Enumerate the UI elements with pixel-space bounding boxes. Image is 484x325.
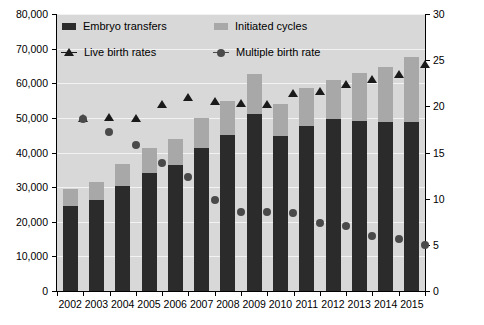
marker-multiple-birth-rate [316, 219, 324, 227]
bar-embryo-transfers [194, 148, 209, 291]
left-axis-tick-label: 0 [42, 286, 48, 296]
marker-live-birth-rate [236, 99, 246, 107]
right-axis-tick-label: 15 [433, 148, 445, 158]
right-axis-tick [426, 291, 430, 292]
right-axis-tick [426, 153, 430, 154]
bar-embryo-transfers [220, 135, 235, 291]
marker-multiple-birth-rate [263, 208, 271, 216]
circle-marker-icon [213, 48, 229, 57]
x-axis-tick-label: 2015 [397, 299, 427, 309]
marker-multiple-birth-rate [395, 235, 403, 243]
left-axis-tick-label: 20,000 [16, 217, 48, 227]
marker-multiple-birth-rate [211, 196, 219, 204]
left-axis-tick [52, 187, 56, 188]
right-axis-tick-label: 20 [433, 101, 445, 111]
x-axis-tick [188, 292, 189, 296]
left-axis-tick [52, 14, 56, 15]
x-axis-tick [372, 292, 373, 296]
x-axis-tick [294, 292, 295, 296]
x-axis-tick [162, 292, 163, 296]
marker-live-birth-rate [288, 89, 298, 97]
left-axis-tick-label: 40,000 [16, 148, 48, 158]
x-axis-tick [136, 292, 137, 296]
gridline [57, 14, 425, 15]
x-axis-tick [425, 292, 426, 296]
bar-embryo-transfers [168, 165, 183, 291]
left-axis-tick [52, 153, 56, 154]
x-axis-tick [57, 292, 58, 296]
x-axis-tick [346, 292, 347, 296]
marker-live-birth-rate [367, 75, 377, 83]
marker-multiple-birth-rate [158, 159, 166, 167]
marker-live-birth-rate [157, 100, 167, 108]
marker-live-birth-rate [315, 87, 325, 95]
legend-item-initiated-cycles: Initiated cycles [214, 20, 307, 32]
left-axis-tick [52, 49, 56, 50]
bar-embryo-transfers [404, 122, 419, 291]
x-axis-tick [110, 292, 111, 296]
marker-live-birth-rate [104, 113, 114, 121]
right-axis-tick [426, 199, 430, 200]
marker-live-birth-rate [394, 70, 404, 78]
marker-live-birth-rate [183, 93, 193, 101]
marker-live-birth-rate [131, 114, 141, 122]
marker-multiple-birth-rate [184, 173, 192, 181]
marker-multiple-birth-rate [421, 241, 429, 249]
bar-group [378, 14, 393, 291]
bar-embryo-transfers [89, 200, 104, 291]
chart-container: 010,00020,00030,00040,00050,00060,00070,… [0, 0, 484, 325]
gridline [57, 187, 425, 188]
legend-item-embryo-transfers: Embryo transfers [62, 20, 167, 32]
bar-embryo-transfers [247, 114, 262, 291]
bar-embryo-transfers [352, 121, 367, 291]
left-axis-tick-label: 80,000 [16, 9, 48, 19]
bar-embryo-transfers [115, 186, 130, 291]
left-axis-tick-label: 50,000 [16, 113, 48, 123]
left-axis-tick [52, 83, 56, 84]
left-axis-tick-label: 60,000 [16, 78, 48, 88]
right-axis-tick-label: 5 [433, 240, 439, 250]
bar-embryo-transfers [378, 122, 393, 291]
left-axis-tick-label: 30,000 [16, 182, 48, 192]
left-axis-tick-label: 70,000 [16, 44, 48, 54]
gridline [57, 83, 425, 84]
x-axis-tick [399, 292, 400, 296]
bar-embryo-transfers [299, 126, 314, 292]
right-axis-tick-label: 25 [433, 55, 445, 65]
legend-label: Multiple birth rate [236, 46, 320, 58]
marker-live-birth-rate [262, 100, 272, 108]
marker-live-birth-rate [210, 97, 220, 105]
left-axis-tick [52, 222, 56, 223]
left-axis-tick [52, 256, 56, 257]
legend-label: Initiated cycles [235, 20, 307, 32]
x-axis-tick [215, 292, 216, 296]
left-axis-tick [52, 291, 56, 292]
right-axis-tick [426, 14, 430, 15]
x-axis-tick [267, 292, 268, 296]
black-square-swatch-icon [62, 23, 76, 30]
marker-multiple-birth-rate [368, 232, 376, 240]
x-axis-tick [83, 292, 84, 296]
triangle-marker-icon [61, 48, 77, 57]
left-axis-line [56, 14, 57, 292]
right-axis-tick-label: 10 [433, 194, 445, 204]
chart-legend: Embryo transfers Initiated cycles Live b… [62, 20, 362, 72]
bar-embryo-transfers [273, 136, 288, 291]
x-axis-tick [320, 292, 321, 296]
gray-square-swatch-icon [214, 23, 228, 30]
right-axis-tick [426, 106, 430, 107]
legend-label: Live birth rates [84, 46, 156, 58]
bar-embryo-transfers [326, 119, 341, 291]
bar-embryo-transfers [63, 206, 78, 291]
left-axis-tick [52, 118, 56, 119]
left-axis-tick-label: 10,000 [16, 251, 48, 261]
gridline [57, 153, 425, 154]
right-axis-tick-label: 0 [433, 286, 439, 296]
legend-item-multiple-birth-rate: Multiple birth rate [213, 46, 320, 58]
bar-embryo-transfers [142, 173, 157, 291]
x-axis-tick [241, 292, 242, 296]
marker-live-birth-rate [341, 80, 351, 88]
bar-group [404, 14, 419, 291]
marker-live-birth-rate [420, 60, 430, 68]
marker-multiple-birth-rate [237, 208, 245, 216]
